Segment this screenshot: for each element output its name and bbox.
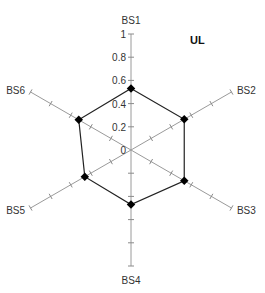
series-polygon — [79, 89, 184, 205]
radar-axes — [31, 34, 232, 266]
axis-tick — [150, 136, 153, 141]
axis-tick — [49, 194, 52, 199]
category-label-bs5: BS5 — [6, 205, 25, 216]
axis-tick — [150, 159, 153, 164]
radial-tick-label: 1 — [120, 29, 126, 40]
axis-tick — [29, 205, 32, 210]
data-point-bs4 — [127, 200, 135, 208]
axis-tick — [89, 124, 92, 129]
radial-tick-label: 0.4 — [112, 99, 126, 110]
axis-tick — [230, 205, 233, 210]
data-point-bs6 — [75, 116, 83, 124]
axis-bs2 — [131, 92, 231, 150]
axis-tick — [89, 171, 92, 176]
chart-title: UL — [190, 34, 205, 46]
axis-bs5 — [31, 150, 131, 208]
radial-tick-label: 0.8 — [112, 52, 126, 63]
data-point-bs3 — [180, 176, 188, 184]
axis-tick — [170, 171, 173, 176]
axis-tick — [210, 194, 213, 199]
radial-tick-label: 0 — [120, 145, 126, 156]
category-label-bs4: BS4 — [122, 275, 141, 286]
category-label-bs2: BS2 — [237, 85, 256, 96]
axis-tick — [190, 182, 193, 187]
axis-tick — [210, 101, 213, 106]
axis-tick — [109, 136, 112, 141]
axis-tick — [69, 182, 72, 187]
axis-tick — [29, 89, 32, 94]
axis-tick — [190, 113, 193, 118]
category-label-bs1: BS1 — [122, 15, 141, 26]
axis-tick — [109, 159, 112, 164]
data-point-bs2 — [180, 115, 188, 123]
axis-bs3 — [131, 150, 231, 208]
category-label-bs6: BS6 — [6, 85, 25, 96]
radial-tick-label: 0.2 — [112, 122, 126, 133]
data-point-bs1 — [127, 84, 135, 92]
axis-tick — [69, 113, 72, 118]
axis-tick — [230, 89, 233, 94]
data-point-bs5 — [81, 172, 89, 180]
series-points — [75, 84, 189, 208]
axis-tick — [170, 124, 173, 129]
radar-chart: 00.20.40.60.81 BS1BS2BS3BS4BS5BS6 UL — [0, 0, 265, 293]
category-label-bs3: BS3 — [237, 205, 256, 216]
axis-tick — [49, 101, 52, 106]
radial-tick-label: 0.6 — [112, 75, 126, 86]
